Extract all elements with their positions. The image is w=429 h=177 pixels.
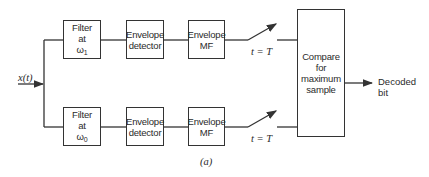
envelope-detector-lower-block: Envelope detector: [126, 107, 164, 146]
compare-max-block: Compare for maximum sample: [297, 9, 345, 137]
envelope-detector-upper-block: Envelope detector: [126, 20, 164, 59]
input-signal-label: x(t): [18, 72, 33, 83]
filter-label: Filter: [72, 22, 92, 33]
figure-caption: (a): [200, 156, 212, 167]
sampler-lower-label: t = T: [251, 133, 272, 144]
envelope-mf-lower-block: Envelope MF: [188, 107, 225, 146]
filter-at-label: at: [78, 33, 86, 44]
filter-omega1-block: Filter at ω1: [63, 20, 101, 59]
omega-symbol: ω1: [77, 44, 88, 58]
filter-omega0-block: Filter at ω0: [63, 107, 101, 146]
omega-symbol: ω0: [77, 131, 88, 145]
envelope-mf-upper-block: Envelope MF: [188, 20, 225, 59]
output-label: Decoded bit: [378, 76, 416, 98]
sampler-upper-label: t = T: [251, 46, 272, 57]
